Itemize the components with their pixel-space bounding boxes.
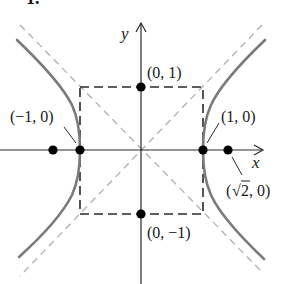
- x-axis-label: x: [251, 153, 260, 172]
- vertex-left-label: (−1, 0): [10, 108, 54, 126]
- leader-vertex-right: [207, 123, 219, 143]
- leader-lines: [64, 123, 242, 175]
- co-vertex-top-point: [136, 82, 145, 91]
- co-vertex-top-label: (0, 1): [147, 64, 182, 82]
- focus-right-point: [223, 145, 232, 154]
- hyperbola-diagram: 1.: [0, 0, 281, 284]
- vertex-left-point: [75, 145, 84, 154]
- y-axis-label: y: [119, 24, 129, 43]
- focus-right-label-root: √: [232, 182, 241, 199]
- co-vertex-bottom-label: (0, −1): [147, 224, 191, 242]
- vertex-right-label: (1, 0): [221, 108, 256, 126]
- diagram-canvas: 1.: [0, 0, 281, 284]
- vertex-right-point: [198, 145, 207, 154]
- focus-right-label-open: (: [226, 182, 231, 200]
- focus-right-label: ( √ 2, 0): [226, 181, 270, 200]
- problem-number: 1.: [26, 0, 40, 8]
- focus-left-point: [48, 145, 57, 154]
- focus-right-label-rest: 2, 0): [241, 182, 270, 200]
- co-vertex-bottom-point: [136, 209, 145, 218]
- leader-focus-right: [232, 157, 242, 175]
- leader-vertex-left: [64, 127, 76, 143]
